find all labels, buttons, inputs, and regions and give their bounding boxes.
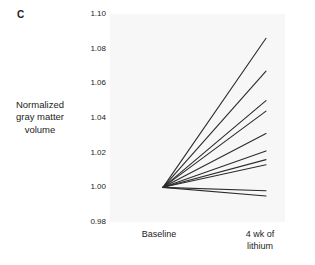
x-tick-lithium-line-1: 4 wk of xyxy=(220,229,300,241)
y-axis-tick-labels: 1.10 1.08 1.06 1.04 1.02 1.00 0.98 xyxy=(76,0,106,265)
y-axis-title-line-2: gray matter xyxy=(2,111,78,123)
series-line xyxy=(163,134,266,188)
y-tick-label-102: 1.02 xyxy=(90,149,106,157)
y-tick-label-100: 1.00 xyxy=(90,183,106,191)
y-tick-label-108: 1.08 xyxy=(90,45,106,53)
y-axis-title: Normalized gray matter volume xyxy=(2,99,78,136)
x-axis-tick-labels: Baseline 4 wk of lithium xyxy=(110,229,300,263)
series-group xyxy=(163,38,266,196)
x-tick-label-baseline: Baseline xyxy=(116,229,202,241)
y-tick-label-104: 1.04 xyxy=(90,114,106,122)
y-tick-label-098: 0.98 xyxy=(90,218,106,226)
y-tick-label-106: 1.06 xyxy=(90,79,106,87)
y-axis-title-line-3: volume xyxy=(2,124,78,136)
y-axis-title-line-1: Normalized xyxy=(2,99,78,111)
series-line xyxy=(163,71,266,187)
x-tick-label-lithium: 4 wk of lithium xyxy=(220,229,300,252)
figure-panel-c: C Normalized gray matter volume 1.10 1.0… xyxy=(0,0,315,265)
series-lines-svg xyxy=(110,14,285,222)
plot-area xyxy=(110,14,285,222)
x-tick-lithium-line-2: lithium xyxy=(220,241,300,253)
x-tick-baseline-line-1: Baseline xyxy=(116,229,202,241)
y-tick-label-110: 1.10 xyxy=(90,10,106,18)
series-line xyxy=(163,38,266,187)
panel-label: C xyxy=(17,9,24,20)
series-line xyxy=(163,160,266,188)
